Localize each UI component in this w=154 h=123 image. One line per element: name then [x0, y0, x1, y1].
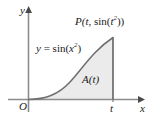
point-p-suffix: )): [117, 15, 124, 27]
point-p-separator: , sin(: [88, 15, 110, 27]
point-p-prefix: P(: [75, 15, 85, 27]
curve-equation-operator: = sin(: [41, 42, 69, 54]
y-axis-arrowhead: [25, 6, 32, 13]
curve-equation-close: ): [77, 42, 81, 54]
curve-equation-label: y = sin(x2): [36, 42, 81, 54]
area-function-diagram: y x O t P(t, sin(t2)) y = sin(x2) A(t): [0, 0, 154, 123]
area-function-label: A(t): [82, 74, 99, 85]
origin-label: O: [19, 101, 27, 112]
area-function-suffix: ): [95, 73, 99, 85]
y-axis-label: y: [20, 5, 25, 16]
x-axis-tick-label-t: t: [110, 103, 113, 114]
point-p-label: P(t, sin(t2)): [75, 15, 124, 27]
x-axis-label: x: [140, 103, 145, 114]
area-function-prefix: A(: [82, 73, 92, 85]
